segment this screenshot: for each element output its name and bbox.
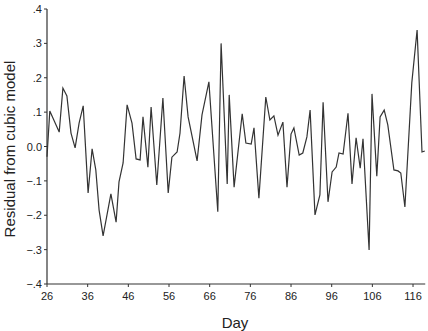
y-tick-label: −.1	[26, 175, 42, 187]
y-tick-label: −.2	[26, 209, 42, 221]
x-tick-label: 26	[41, 290, 53, 302]
x-tick-label: 76	[244, 290, 256, 302]
x-tick-label: 96	[326, 290, 338, 302]
residual-line	[47, 30, 425, 250]
x-axis: 2636465666768696106116	[41, 284, 425, 302]
y-tick-label: 0.0	[27, 141, 42, 153]
x-tick-label: 46	[122, 290, 134, 302]
x-tick-label: 66	[204, 290, 216, 302]
y-axis-label: Residual from cubic model	[1, 43, 23, 255]
x-tick-label: 86	[285, 290, 297, 302]
y-axis: .4.3.2.10.0−.1−.2−.3−.4	[26, 3, 47, 290]
x-tick-label: 116	[404, 290, 422, 302]
x-tick-label: 106	[363, 290, 381, 302]
y-tick-label: −.4	[26, 278, 42, 290]
x-tick-label: 56	[163, 290, 175, 302]
y-tick-label: −.3	[26, 244, 42, 256]
y-tick-label: .1	[33, 106, 42, 118]
x-tick-label: 36	[82, 290, 94, 302]
x-axis-label: Day	[205, 314, 265, 331]
y-tick-label: .2	[33, 72, 42, 84]
y-tick-label: .3	[33, 37, 42, 49]
y-tick-label: .4	[33, 3, 42, 15]
